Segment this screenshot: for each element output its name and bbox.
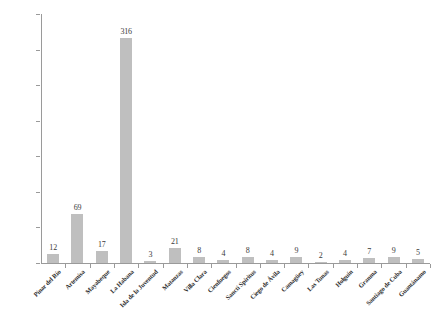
x-axis-tick-mark — [381, 264, 382, 268]
bar[interactable] — [388, 257, 400, 263]
bar-value-label: 12 — [39, 243, 67, 252]
bar[interactable] — [96, 251, 108, 263]
y-axis-tick-mark — [36, 192, 40, 193]
x-axis-label: Camagüey — [280, 268, 305, 293]
bar-chart: 050100150200250300350 126917316321848492… — [0, 0, 448, 327]
y-axis-tick-mark — [36, 263, 40, 264]
bar[interactable] — [315, 262, 327, 263]
bar[interactable] — [242, 257, 254, 263]
bar-value-label: 316 — [112, 27, 140, 36]
x-axis-label: Villa Clara — [182, 268, 208, 294]
x-axis-tick-mark — [430, 264, 431, 268]
x-axis-tick-mark — [65, 264, 66, 268]
x-axis-tick-mark — [357, 264, 358, 268]
y-axis-tick-mark — [36, 227, 40, 228]
bar[interactable] — [193, 257, 205, 263]
x-axis-tick-mark — [308, 264, 309, 268]
bar[interactable] — [71, 214, 83, 263]
x-axis-tick-mark — [284, 264, 285, 268]
y-axis-tick-mark — [36, 14, 40, 15]
bar-value-label: 3 — [136, 250, 164, 259]
bar[interactable] — [120, 38, 132, 263]
bar-value-label: 69 — [63, 203, 91, 212]
y-axis-tick-mark — [36, 121, 40, 122]
y-axis-line — [41, 14, 42, 264]
x-axis-label: Las Tunas — [305, 268, 329, 292]
x-axis-label: Artemisa — [64, 268, 87, 291]
x-axis-tick-mark — [163, 264, 164, 268]
bar[interactable] — [217, 260, 229, 263]
bar[interactable] — [412, 259, 424, 263]
x-axis-tick-mark — [236, 264, 237, 268]
bar[interactable] — [266, 260, 278, 263]
x-axis-tick-mark — [333, 264, 334, 268]
bar[interactable] — [363, 258, 375, 263]
bar[interactable] — [339, 260, 351, 263]
x-axis-tick-mark — [90, 264, 91, 268]
y-axis-tick-mark — [36, 50, 40, 51]
x-axis-label: Mayabeque — [83, 268, 110, 295]
y-axis-tick-mark — [36, 156, 40, 157]
bar-value-label: 5 — [404, 248, 432, 257]
x-axis-tick-mark — [187, 264, 188, 268]
x-axis-tick-mark — [138, 264, 139, 268]
x-axis-label: Holguín — [334, 268, 354, 288]
y-axis-tick-mark — [36, 85, 40, 86]
bar[interactable] — [47, 254, 59, 263]
x-axis-tick-mark — [406, 264, 407, 268]
x-axis-label: Pinar del Río — [32, 268, 62, 298]
x-axis-tick-mark — [260, 264, 261, 268]
x-axis-label: Matanzas — [160, 268, 184, 292]
bar[interactable] — [144, 261, 156, 263]
bar[interactable] — [290, 257, 302, 263]
x-axis-tick-mark — [114, 264, 115, 268]
x-axis-label: Granma — [357, 268, 378, 289]
bar-value-label: 17 — [88, 240, 116, 249]
bar[interactable] — [169, 248, 181, 263]
x-axis-tick-mark — [211, 264, 212, 268]
bar-value-label: 21 — [161, 237, 189, 246]
